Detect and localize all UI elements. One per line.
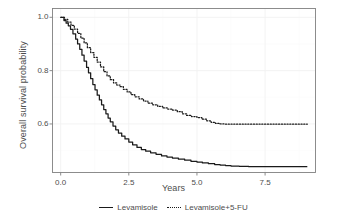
panel-background bbox=[53, 9, 316, 173]
x-tick-label: 2.5 bbox=[114, 178, 144, 187]
y-tick-label: 0.6 bbox=[23, 119, 49, 128]
y-tick-label: 1.0 bbox=[23, 12, 49, 21]
legend-label: Levamisole bbox=[117, 203, 157, 212]
legend-entry-1: Levamisole bbox=[99, 203, 157, 212]
chart-legend: LevamisoleLevamisole+5-FU bbox=[0, 203, 347, 212]
y-tick-label: 0.8 bbox=[23, 66, 49, 75]
legend-solid-line-icon bbox=[99, 207, 113, 208]
legend-label: Levamisole+5-FU bbox=[185, 203, 248, 212]
survival-curve-figure: Overall survival probability Years 1.00.… bbox=[0, 0, 347, 224]
x-tick-label: 7.5 bbox=[250, 178, 280, 187]
legend-dotted-line-icon bbox=[167, 207, 181, 208]
x-tick-label: 5.0 bbox=[182, 178, 212, 187]
legend-entry-2: Levamisole+5-FU bbox=[167, 203, 248, 212]
x-tick-label: 0.0 bbox=[46, 178, 76, 187]
y-axis-title: Overall survival probability bbox=[18, 25, 28, 165]
